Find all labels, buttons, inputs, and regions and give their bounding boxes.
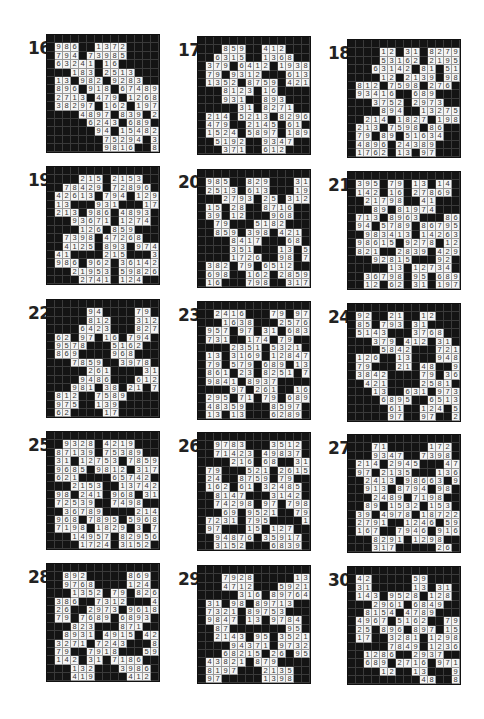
answer-cell: 3 xyxy=(412,281,420,289)
black-cell xyxy=(79,251,87,259)
answer-cell: 1 xyxy=(230,212,238,220)
black-cell xyxy=(270,279,278,287)
answer-cell: 8 xyxy=(95,376,103,384)
black-cell xyxy=(63,300,71,308)
answer-cell: 2 xyxy=(380,149,388,157)
answer-cell: 9 xyxy=(87,673,95,681)
black-cell xyxy=(348,239,356,247)
black-cell xyxy=(47,167,55,175)
black-cell xyxy=(428,172,436,180)
answer-cell: 8 xyxy=(270,220,278,228)
black-cell xyxy=(444,90,452,98)
black-cell xyxy=(119,673,127,681)
black-cell xyxy=(55,119,63,127)
black-cell xyxy=(214,96,222,104)
answer-cell: 7 xyxy=(214,675,222,683)
black-cell xyxy=(348,651,356,659)
black-cell xyxy=(47,217,55,225)
black-cell xyxy=(198,113,206,121)
black-cell xyxy=(206,96,214,104)
black-cell xyxy=(151,60,159,68)
black-cell xyxy=(356,48,364,56)
answer-cell: 4 xyxy=(79,111,87,119)
black-cell xyxy=(404,668,412,676)
answer-cell: 3 xyxy=(428,651,436,659)
black-cell xyxy=(348,659,356,667)
black-cell xyxy=(55,432,63,440)
black-cell xyxy=(270,625,278,633)
black-cell xyxy=(63,673,71,681)
black-cell xyxy=(198,378,206,386)
answer-cell: 8 xyxy=(135,589,143,597)
black-cell xyxy=(302,542,310,550)
black-cell xyxy=(380,575,388,583)
answer-cell: 3 xyxy=(119,665,127,673)
black-cell xyxy=(103,167,111,175)
answer-cell: 8 xyxy=(151,606,159,614)
black-cell xyxy=(135,43,143,51)
answer-cell: 3 xyxy=(55,102,63,110)
answer-cell: 1 xyxy=(356,634,364,642)
answer-cell: 7 xyxy=(286,642,294,650)
answer-cell: 2 xyxy=(396,363,404,371)
black-cell xyxy=(294,658,302,666)
answer-cell: 8 xyxy=(294,327,302,335)
black-cell xyxy=(198,369,206,377)
black-cell xyxy=(222,411,230,419)
answer-cell: 3 xyxy=(396,321,404,329)
black-cell xyxy=(47,192,55,200)
answer-cell: 3 xyxy=(428,107,436,115)
black-cell xyxy=(356,405,364,413)
black-cell xyxy=(254,566,262,574)
black-cell xyxy=(47,350,55,358)
black-cell xyxy=(79,598,87,606)
answer-cell: 1 xyxy=(404,363,412,371)
black-cell xyxy=(404,676,412,684)
answer-cell: 8 xyxy=(95,614,103,622)
black-cell xyxy=(63,167,71,175)
black-cell xyxy=(143,136,151,144)
black-cell xyxy=(103,572,111,580)
black-cell xyxy=(444,304,452,312)
black-cell xyxy=(230,675,238,683)
answer-cell: 6 xyxy=(262,146,270,154)
black-cell xyxy=(198,271,206,279)
black-cell xyxy=(151,209,159,217)
answer-cell: 4 xyxy=(71,673,79,681)
answer-cell: 1 xyxy=(262,675,270,683)
black-cell xyxy=(214,37,222,45)
black-cell xyxy=(254,204,262,212)
black-cell xyxy=(198,574,206,582)
black-cell xyxy=(143,276,151,284)
black-cell xyxy=(87,136,95,144)
black-cell xyxy=(222,204,230,212)
black-cell xyxy=(47,175,55,183)
answer-cell: 1 xyxy=(206,79,214,87)
black-cell xyxy=(143,167,151,175)
black-cell xyxy=(103,350,111,358)
black-cell xyxy=(452,90,460,98)
answer-cell: 1 xyxy=(135,673,143,681)
black-cell xyxy=(198,319,206,327)
black-cell xyxy=(364,256,372,264)
answer-cell: 6 xyxy=(119,85,127,93)
black-cell xyxy=(47,60,55,68)
black-cell xyxy=(47,614,55,622)
black-cell xyxy=(404,575,412,583)
answer-cell: 3 xyxy=(79,589,87,597)
answer-cell: 1 xyxy=(127,581,135,589)
answer-cell: 1 xyxy=(230,411,238,419)
answer-cell: 8 xyxy=(111,144,119,152)
black-cell xyxy=(198,121,206,129)
black-cell xyxy=(254,403,262,411)
answer-cell: 9 xyxy=(119,392,127,400)
answer-cell: 2 xyxy=(71,482,79,490)
answer-cell: 5 xyxy=(71,401,79,409)
answer-cell: 1 xyxy=(119,144,127,152)
answer-cell: 6 xyxy=(364,659,372,667)
black-cell xyxy=(151,673,159,681)
black-cell xyxy=(47,432,55,440)
black-cell xyxy=(254,675,262,683)
black-cell xyxy=(47,144,55,152)
black-cell xyxy=(103,482,111,490)
